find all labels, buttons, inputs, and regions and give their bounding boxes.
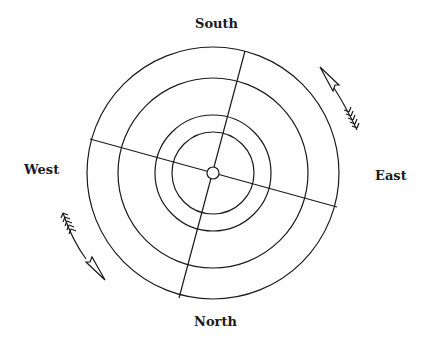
diagram-canvas: [0, 0, 424, 347]
south-label: South: [195, 16, 238, 31]
west-label: West: [24, 162, 59, 177]
east-label: East: [375, 168, 407, 183]
center-hub: [207, 167, 219, 179]
east-side-arrow-icon: [320, 67, 359, 130]
north-label: North: [194, 314, 237, 329]
circular-rotation-diagram: South North West East: [0, 0, 424, 347]
west-side-arrow-icon: [61, 213, 105, 280]
